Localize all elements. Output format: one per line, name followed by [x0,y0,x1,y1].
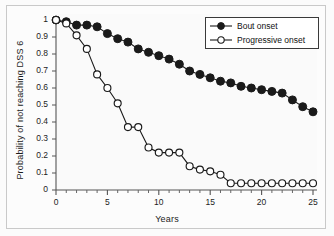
x-tick-label: 15 [198,197,222,207]
data-point [176,149,183,156]
data-point [93,23,101,31]
data-point [258,180,265,187]
data-point [135,124,142,131]
data-point [186,67,194,75]
data-point [196,70,204,78]
data-point [83,21,91,29]
data-point [268,87,276,95]
data-point [53,17,60,24]
data-point [206,74,214,82]
x-axis-title: Years [0,214,334,224]
data-point [258,86,266,94]
filled-circle-icon [210,21,232,31]
data-point [124,124,131,131]
chart-legend: Bout onset Progressive onset [205,17,319,49]
data-point [145,144,152,151]
data-point [288,96,296,104]
data-point [299,103,307,111]
data-point [227,180,234,187]
data-point [186,163,193,170]
x-tick-label: 10 [147,197,171,207]
data-point [309,108,317,116]
y-tick-label: 1 [22,14,48,24]
figure-container: Years Probability of not reaching DSS 6 … [0,0,334,236]
x-tick-label: 5 [95,197,119,207]
legend-item-bout-onset: Bout onset [210,19,278,33]
y-tick-label: 0 [22,184,48,194]
data-point [114,100,121,107]
data-point [94,71,101,78]
data-point [207,168,214,175]
y-tick-label: 0.4 [22,116,48,126]
y-tick-label: 0.8 [22,48,48,58]
data-point [310,180,317,187]
data-point [279,180,286,187]
data-point [165,55,173,63]
data-point [155,52,163,60]
data-point [124,38,132,46]
y-tick-label: 0.5 [22,99,48,109]
legend-item-progressive-onset: Progressive onset [210,33,305,47]
data-point [83,45,90,52]
data-point [175,60,183,68]
data-point [237,82,245,90]
x-tick-label: 20 [250,197,274,207]
y-tick-label: 0.3 [22,133,48,143]
data-point [247,84,255,92]
data-point [63,20,70,27]
data-point [73,21,81,29]
data-point [166,149,173,156]
data-point [73,32,80,39]
data-point [103,30,111,38]
x-tick-label: 25 [301,197,325,207]
y-tick-label: 0.1 [22,167,48,177]
y-tick-label: 0.2 [22,150,48,160]
data-point [134,45,142,53]
data-point [278,89,286,97]
open-circle-icon [210,35,232,45]
x-tick-label: 0 [44,197,68,207]
data-point [227,79,235,87]
data-point [299,180,306,187]
data-point [196,166,203,173]
data-point [216,77,224,85]
data-point [268,180,275,187]
data-point [289,180,296,187]
legend-label-bout-onset: Bout onset [237,21,278,31]
y-tick-label: 0.9 [22,31,48,41]
data-point [217,171,224,178]
data-point [238,180,245,187]
y-tick-label: 0.7 [22,65,48,75]
y-tick-label: 0.6 [22,82,48,92]
data-point [145,48,153,56]
data-point [104,85,111,92]
data-point [155,149,162,156]
legend-label-progressive-onset: Progressive onset [237,35,305,45]
data-point [248,180,255,187]
data-point [114,35,122,43]
